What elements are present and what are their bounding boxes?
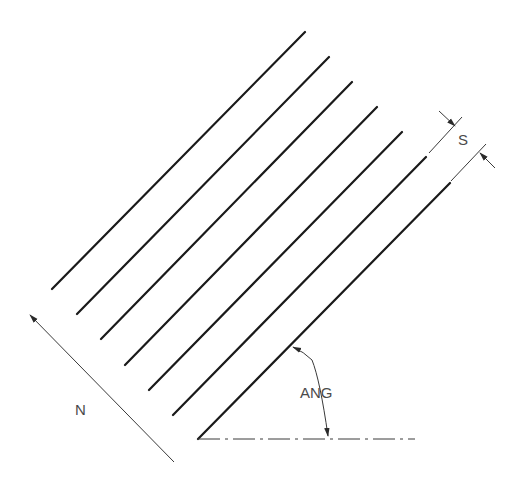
spacing-arrow-upper bbox=[439, 111, 455, 126]
spacing-arrow-lower bbox=[480, 153, 495, 168]
hatch-line bbox=[125, 107, 377, 365]
spacing-extension-line-lower bbox=[451, 144, 486, 181]
spacing-dimension: S bbox=[429, 111, 495, 181]
hatch-line bbox=[77, 57, 329, 314]
angle-label: ANG bbox=[300, 384, 333, 401]
hatch-line bbox=[149, 132, 402, 390]
hatch-diagram: S N ANG bbox=[0, 0, 519, 483]
angle-dimension: ANG bbox=[198, 347, 415, 439]
spacing-label: S bbox=[458, 131, 468, 148]
hatch-line bbox=[52, 32, 305, 289]
hatch-line bbox=[173, 157, 426, 415]
hatch-lines bbox=[52, 32, 450, 439]
hatch-line bbox=[101, 82, 352, 339]
normal-label: N bbox=[75, 401, 86, 418]
angle-arc-top bbox=[293, 347, 312, 360]
